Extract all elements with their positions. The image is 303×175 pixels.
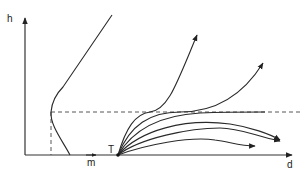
diagram: h d m T (0, 0, 303, 175)
trajectory-2 (118, 63, 263, 155)
y-axis-label: h (7, 13, 13, 24)
m-label: m (87, 157, 95, 168)
t-label: T (108, 144, 114, 155)
left-profile-curve (51, 15, 112, 155)
x-axis-label: d (287, 159, 293, 170)
trajectory-6 (118, 139, 255, 155)
trajectory-5 (118, 128, 280, 155)
trajectory-fan (118, 35, 280, 155)
point-t (116, 153, 120, 157)
